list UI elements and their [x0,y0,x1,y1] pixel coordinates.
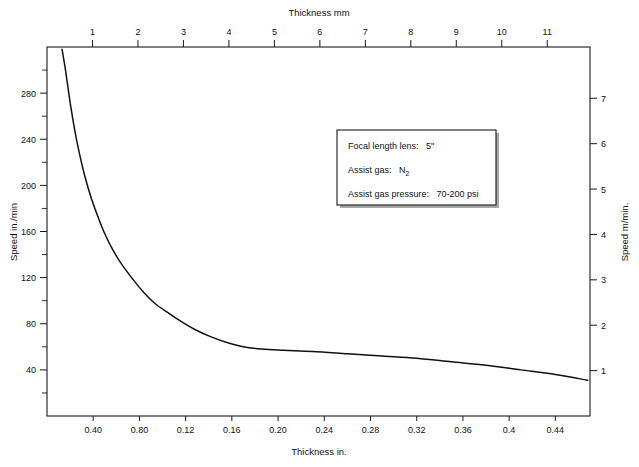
axis-tick-label: 280 [21,89,36,99]
cutting-speed-chart: 1234567891011 Thickness mm 0.400.800.120… [0,0,639,467]
axis-tick-label: 0.24 [316,425,334,435]
axis-tick-label: 10 [497,27,507,37]
axis-tick-label: 5 [272,27,277,37]
axis-tick-label: 0.40 [84,425,102,435]
axis-tick-label: 6 [601,139,606,149]
note-line-3: Assist gas pressure: 70-200 psi [348,189,479,199]
left-axis-speed-in-min: 4080120160200240280 [21,70,47,393]
axis-tick-label: 7 [363,27,368,37]
axis-tick-label: 0.4 [503,425,516,435]
axis-tick-label: 6 [317,27,322,37]
axis-tick-label: 0.28 [362,425,380,435]
axis-tick-label: 0.20 [269,425,287,435]
axis-tick-label: 0.44 [547,425,565,435]
bottom-axis-thickness-in: 0.400.800.120.160.200.240.280.320.360.40… [84,416,564,435]
bottom-axis-title: Thickness in. [291,446,346,457]
axis-tick-label: 3 [181,27,186,37]
speed-curve [62,49,588,380]
axis-tick-label: 11 [543,27,552,37]
axis-tick-label: 3 [601,275,606,285]
top-axis-thickness-mm: 1234567891011 [90,27,552,47]
axis-tick-label: 0.80 [131,425,149,435]
axis-tick-label: 80 [26,319,36,329]
axis-tick-label: 1 [90,27,95,37]
axis-tick-label: 0.32 [408,425,426,435]
axis-tick-label: 9 [454,27,459,37]
axis-tick-label: 120 [21,273,36,283]
axis-tick-label: 240 [21,135,36,145]
axis-tick-label: 4 [226,27,231,37]
axis-tick-label: 7 [601,94,606,104]
left-axis-title: Speed in./min [8,203,19,261]
axis-tick-label: 4 [601,230,606,240]
top-axis-title: Thickness mm [288,7,349,18]
axis-tick-label: 2 [135,27,140,37]
axis-tick-label: 160 [21,227,36,237]
right-axis-speed-m-min: 1234567 [590,94,606,376]
axis-tick-label: 0.36 [454,425,472,435]
axis-tick-label: 0.16 [223,425,241,435]
axis-tick-label: 0.12 [177,425,195,435]
parameters-annotation-box: Focal length lens: 5" Assist gas: N2 Ass… [337,130,499,208]
axis-tick-label: 200 [21,181,36,191]
axis-tick-label: 1 [601,366,606,376]
axis-tick-label: 5 [601,185,606,195]
right-axis-title: Speed m/min. [619,203,630,262]
axis-tick-label: 8 [408,27,413,37]
plot-frame [47,47,590,416]
axis-tick-label: 2 [601,321,606,331]
chart-container: 1234567891011 Thickness mm 0.400.800.120… [0,0,639,467]
axis-tick-label: 40 [26,365,36,375]
